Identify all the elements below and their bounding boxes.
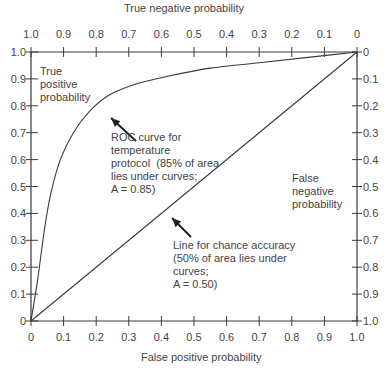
- bottom-tick-label: 0.3: [121, 331, 136, 343]
- right-tick-label: 0: [363, 46, 369, 58]
- left-tick-label: 0.9: [11, 73, 26, 85]
- left-tick-label: 0: [20, 315, 26, 327]
- left-tick-label: 0.2: [11, 261, 26, 273]
- bottom-tick-label: 0.8: [284, 331, 299, 343]
- bottom-tick-label: 0.9: [317, 331, 332, 343]
- left-tick-label: 0.4: [11, 207, 26, 219]
- left-tick-label: 0.3: [11, 234, 26, 246]
- roc-curve-annotation: ROC curve for temperature protocol (85% …: [111, 131, 219, 196]
- top-tick-label: 0.4: [219, 28, 234, 40]
- bottom-tick-label: 0.1: [56, 331, 71, 343]
- right-tick-label: 0.6: [363, 207, 378, 219]
- right-tick-label: 0.1: [363, 73, 378, 85]
- top-tick-label: 0.1: [317, 28, 332, 40]
- bottom-axis-title: False positive probability: [141, 351, 261, 364]
- right-tick-label: 0.9: [363, 288, 378, 300]
- top-tick-label: 0.8: [89, 28, 104, 40]
- left-axis-title: True positive probability: [40, 65, 90, 104]
- top-tick-label: 0.2: [284, 28, 299, 40]
- left-tick-label: 0.8: [11, 100, 26, 112]
- bottom-tick-label: 1.0: [349, 331, 364, 343]
- bottom-tick-label: 0.5: [186, 331, 201, 343]
- left-tick-label: 0.1: [11, 288, 26, 300]
- top-tick-label: 0.7: [121, 28, 136, 40]
- bottom-tick-label: 0.2: [89, 331, 104, 343]
- top-tick-label: 0.5: [186, 28, 201, 40]
- top-tick-label: 0.9: [56, 28, 71, 40]
- right-tick-label: 1.0: [363, 315, 378, 327]
- right-tick-label: 0.2: [363, 100, 378, 112]
- left-tick-label: 0.5: [11, 181, 26, 193]
- right-tick-label: 0.7: [363, 234, 378, 246]
- right-tick-label: 0.5: [363, 181, 378, 193]
- left-tick-label: 0.7: [11, 127, 26, 139]
- top-tick-label: 0.6: [154, 28, 169, 40]
- bottom-tick-label: 0: [28, 331, 34, 343]
- right-tick-label: 0.4: [363, 154, 378, 166]
- top-tick-label: 1.0: [23, 28, 38, 40]
- top-axis-title: True negative probability: [124, 2, 244, 15]
- top-tick-label: 0.3: [252, 28, 267, 40]
- chance-line-annotation: Line for chance accuracy (50% of area li…: [173, 239, 295, 291]
- left-tick-label: 1.0: [11, 46, 26, 58]
- bottom-tick-label: 0.7: [252, 331, 267, 343]
- bottom-tick-label: 0.6: [219, 331, 234, 343]
- left-tick-label: 0.6: [11, 154, 26, 166]
- right-tick-label: 0.3: [363, 127, 378, 139]
- right-tick-label: 0.8: [363, 261, 378, 273]
- right-axis-title: False negative probability: [292, 172, 342, 211]
- top-tick-label: 0: [354, 28, 360, 40]
- bottom-tick-label: 0.4: [154, 331, 169, 343]
